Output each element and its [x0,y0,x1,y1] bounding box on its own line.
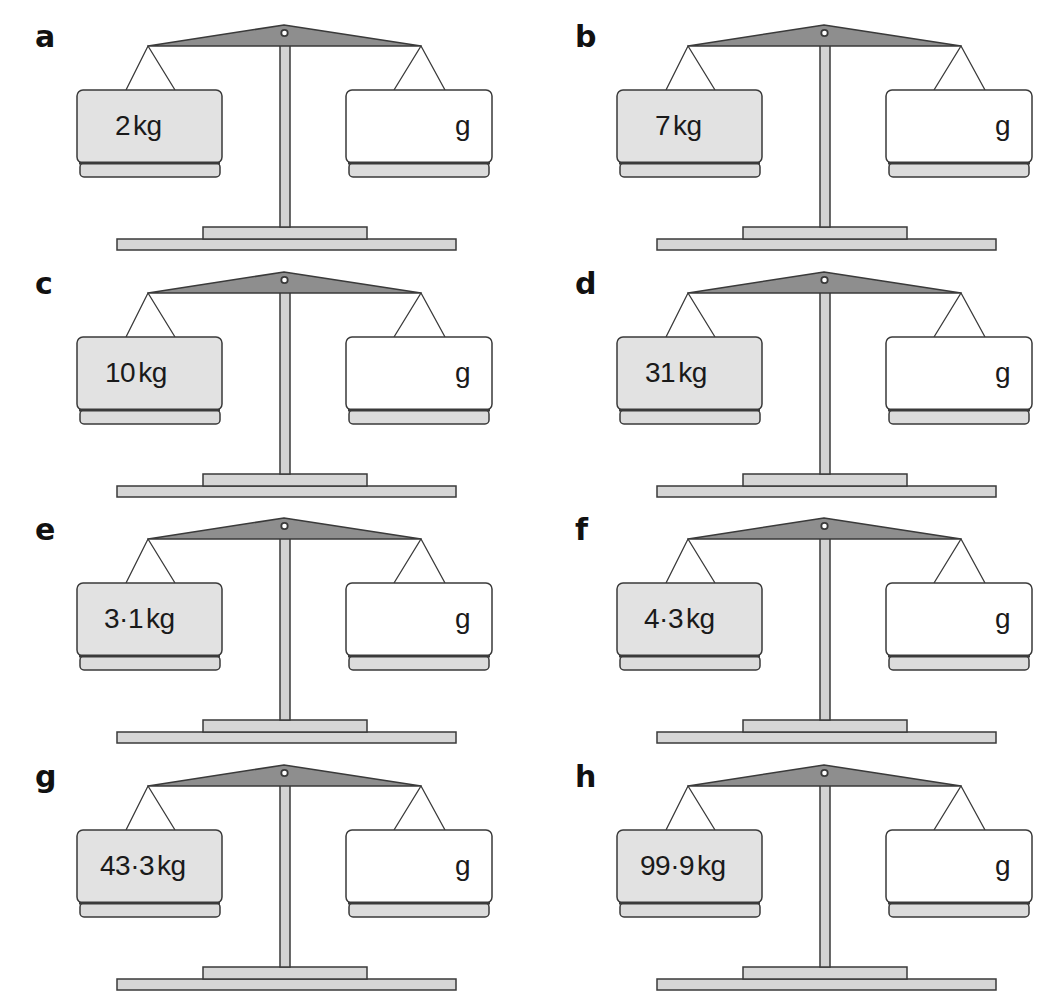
left-weight-value: 7 [655,110,670,141]
scale-base-bottom [657,979,996,990]
left-strings [126,293,175,337]
scale-base-bottom [117,979,456,990]
right-strings [934,539,985,583]
answer-input-slot[interactable] [356,351,446,395]
left-weight-label: 31kg [645,359,707,387]
pivot [281,770,287,776]
left-pan-tray [620,903,760,917]
right-weight-unit: g [995,112,1011,140]
scale-base-top [743,227,907,239]
left-weight-value: 2 [115,110,130,141]
pivot [281,30,287,36]
right-strings [394,293,445,337]
scale-post [820,30,830,227]
left-pan-tray [80,903,220,917]
scale-base-top [203,474,367,486]
scale-post [280,523,290,720]
right-weight-unit: g [455,605,471,633]
right-pan-tray [889,410,1029,424]
left-weight-unit: kg [678,357,707,388]
scale-post [820,277,830,474]
left-strings [126,46,175,90]
scale-post [820,770,830,967]
right-weight-unit: g [995,852,1011,880]
right-weight-unit: g [455,359,471,387]
answer-input-slot[interactable] [896,104,986,148]
scale-base-top [743,474,907,486]
right-strings [394,539,445,583]
left-weight-label: 4·3kg [644,605,715,633]
left-pan-tray [80,656,220,670]
left-weight-unit: kg [138,357,167,388]
right-strings [934,293,985,337]
right-strings [394,46,445,90]
left-strings [666,539,715,583]
left-strings [126,539,175,583]
answer-input-slot[interactable] [896,597,986,641]
left-weight-label: 3·1kg [104,605,175,633]
left-weight-unit: kg [133,110,162,141]
answer-input-slot[interactable] [356,844,446,888]
scale-panel-a: a 2kg g [0,0,520,247]
right-pan-tray [889,656,1029,670]
scale-panel-f: f 4·3kg g [540,493,1057,740]
pivot [821,30,827,36]
left-pan-tray [620,410,760,424]
scale-panel-e: e 3·1kg g [0,493,520,740]
right-strings [934,46,985,90]
left-weight-value: 4·3 [644,603,683,634]
left-strings [666,786,715,830]
left-pan-tray [620,163,760,177]
right-pan-tray [889,163,1029,177]
pivot [281,277,287,283]
right-pan-tray [349,163,489,177]
scale-panel-b: b 7kg g [540,0,1057,247]
left-weight-label: 10kg [105,359,167,387]
left-pan-tray [80,410,220,424]
answer-input-slot[interactable] [356,597,446,641]
scale-panel-h: h 99·9kg g [540,740,1057,987]
left-weight-label: 7kg [655,112,702,140]
right-pan-tray [349,903,489,917]
left-weight-label: 99·9kg [640,852,726,880]
right-weight-unit: g [995,359,1011,387]
pivot [821,523,827,529]
left-weight-label: 2kg [115,112,162,140]
left-strings [666,46,715,90]
scale-post [280,277,290,474]
right-weight-unit: g [995,605,1011,633]
left-pan-tray [620,656,760,670]
right-strings [394,786,445,830]
scale-post [280,30,290,227]
left-weight-unit: kg [697,850,726,881]
scale-post [820,523,830,720]
right-weight-unit: g [455,852,471,880]
left-weight-label: 43·3kg [100,852,186,880]
right-pan-tray [889,903,1029,917]
left-weight-unit: kg [673,110,702,141]
answer-input-slot[interactable] [896,351,986,395]
scale-base-top [203,967,367,979]
left-weight-value: 10 [105,357,135,388]
pivot [821,770,827,776]
left-weight-unit: kg [146,603,175,634]
right-weight-unit: g [455,112,471,140]
pivot [281,523,287,529]
scale-base-top [743,720,907,732]
scale-base-top [743,967,907,979]
pivot [821,277,827,283]
left-weight-value: 99·9 [640,850,694,881]
left-weight-value: 3·1 [104,603,143,634]
scale-post [280,770,290,967]
scale-base-top [203,720,367,732]
left-weight-unit: kg [686,603,715,634]
scale-panel-c: c 10kg g [0,247,520,494]
scale-base-top [203,227,367,239]
answer-input-slot[interactable] [896,844,986,888]
left-strings [126,786,175,830]
answer-input-slot[interactable] [356,104,446,148]
left-weight-unit: kg [157,850,186,881]
left-weight-value: 31 [645,357,675,388]
right-pan-tray [349,656,489,670]
left-weight-value: 43·3 [100,850,154,881]
